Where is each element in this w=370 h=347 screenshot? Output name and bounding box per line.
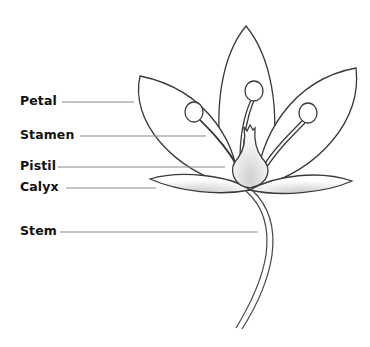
label-stamen: Stamen bbox=[20, 129, 74, 142]
label-stem: Stem bbox=[20, 225, 57, 238]
flower-diagram bbox=[0, 0, 370, 347]
label-calyx: Calyx bbox=[20, 181, 59, 194]
stem-drawing bbox=[236, 190, 273, 329]
label-pistil: Pistil bbox=[20, 160, 56, 173]
label-petal: Petal bbox=[20, 95, 57, 108]
